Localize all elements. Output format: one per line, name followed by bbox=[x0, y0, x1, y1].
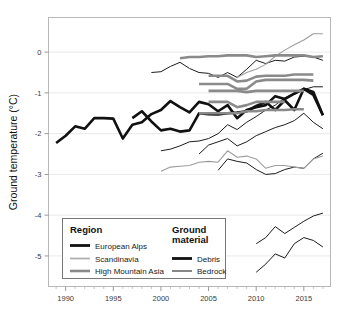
legend-material-title-line2: material bbox=[172, 234, 208, 245]
y-axis-ticks: 0-1-2-3-4-5 bbox=[35, 48, 49, 261]
y-tick-label: -3 bbox=[35, 170, 42, 179]
series-line bbox=[209, 91, 304, 92]
series-line bbox=[56, 89, 323, 143]
chart-canvas: 0-1-2-3-4-5 199019952000200520102015 Gro… bbox=[0, 0, 347, 315]
chart-legend: Region European Alps Scandinavia High Mo… bbox=[63, 219, 228, 279]
legend-region-title: Region bbox=[70, 224, 102, 235]
x-tick-label: 2005 bbox=[200, 294, 217, 303]
legend-label-bedrock: Bedrock bbox=[197, 267, 227, 276]
series-line bbox=[199, 80, 313, 89]
ground-temperature-figure: 0-1-2-3-4-5 199019952000200520102015 Gro… bbox=[0, 0, 347, 315]
series-line bbox=[256, 238, 323, 273]
series-line bbox=[161, 87, 323, 151]
legend-label-european-alps: European Alps bbox=[95, 242, 147, 251]
x-tick-label: 1995 bbox=[105, 294, 122, 303]
y-tick-label: -4 bbox=[35, 211, 42, 220]
y-tick-label: -1 bbox=[35, 89, 42, 98]
y-tick-label: -2 bbox=[35, 129, 42, 138]
legend-label-scandinavia: Scandinavia bbox=[95, 255, 139, 264]
x-tick-label: 2000 bbox=[153, 294, 170, 303]
y-tick-label: 0 bbox=[37, 48, 41, 57]
series-line bbox=[218, 153, 323, 174]
x-tick-label: 2010 bbox=[248, 294, 265, 303]
legend-label-high-mountain-asia: High Mountain Asia bbox=[95, 267, 164, 276]
legend-label-debris: Debris bbox=[197, 255, 220, 264]
series-line bbox=[161, 151, 323, 171]
x-axis-ticks: 199019952000200520102015 bbox=[56, 287, 323, 303]
series-line bbox=[256, 213, 323, 244]
x-tick-label: 1990 bbox=[57, 294, 74, 303]
x-tick-label: 2015 bbox=[295, 294, 312, 303]
y-tick-label: -5 bbox=[35, 252, 42, 261]
y-axis-title: Ground temperature (°C) bbox=[7, 94, 19, 210]
